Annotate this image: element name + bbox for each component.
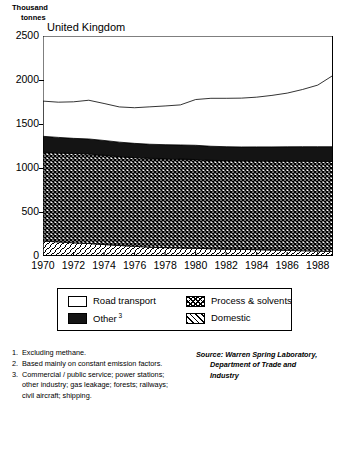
y-tick-label: 1000 [3, 161, 39, 173]
page-edge-artifact [8, 446, 308, 451]
legend-swatch-white [68, 296, 87, 307]
footnote-number: 1. [12, 348, 18, 358]
source-note: Source: Warren Spring Laboratory, Depart… [196, 350, 346, 381]
footnote-text: Commercial / public service; power stati… [22, 370, 168, 400]
footnote-number: 2. [12, 359, 18, 369]
legend-label: Process & solvents [211, 295, 292, 306]
y-axis-title: Thousand tonnes [12, 3, 48, 22]
footnote-item: 1.Excluding methane. [12, 348, 172, 358]
legend-swatch-solid-dark [68, 313, 87, 324]
y-tick-label: 2000 [3, 73, 39, 85]
y-tick-label: 1500 [3, 117, 39, 129]
legend-footnote-marker: 3 [117, 312, 122, 319]
footnotes: 1.Excluding methane.2.Based mainly on co… [12, 348, 172, 402]
footnote-text: Based mainly on constant emission factor… [22, 359, 162, 368]
legend-swatch-diagonal-hatch [186, 313, 205, 324]
legend-label: Other 3 [93, 312, 122, 324]
footnote-text: Excluding methane. [22, 348, 86, 357]
y-tick-label: 500 [3, 205, 39, 217]
plot-area [43, 36, 333, 256]
source-line1: Source: Warren Spring Laboratory, [196, 350, 317, 359]
footnote-item: 3.Commercial / public service; power sta… [12, 370, 172, 401]
area-series-road-transport [43, 75, 333, 147]
source-line2: Department of Trade and [196, 360, 346, 370]
chart-legend: Road transportOther 3Process & solventsD… [57, 288, 292, 331]
area-layers [43, 75, 333, 256]
y-axis-title-line2: tonnes [12, 13, 48, 23]
x-tick-label: 1988 [298, 259, 338, 271]
legend-label: Domestic [211, 312, 251, 323]
area-series-process-solvents [43, 152, 333, 251]
footnote-number: 3. [12, 370, 18, 380]
legend-label: Road transport [93, 295, 156, 306]
source-line3: Industry [196, 371, 346, 381]
stacked-area-chart [43, 36, 333, 256]
y-tick-label: 2500 [3, 29, 39, 41]
footnote-item: 2.Based mainly on constant emission fact… [12, 359, 172, 369]
y-axis-title-line1: Thousand [12, 3, 48, 12]
legend-swatch-crosshatch [186, 296, 205, 307]
chart-title: United Kingdom [47, 21, 125, 33]
